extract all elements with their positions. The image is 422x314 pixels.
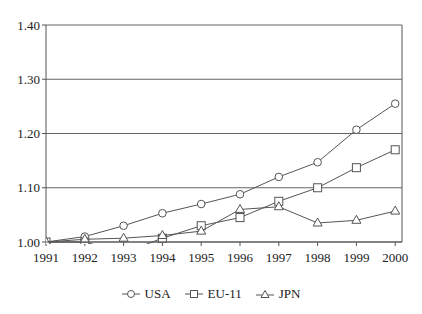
y-tick-label: 1.20 bbox=[17, 126, 40, 141]
square-marker-icon bbox=[314, 184, 322, 192]
triangle-marker-icon bbox=[256, 289, 274, 299]
circle-marker-icon bbox=[314, 158, 322, 166]
x-tick-label: 1994 bbox=[149, 250, 176, 265]
square-marker-icon bbox=[391, 146, 399, 154]
circle-marker-icon bbox=[353, 126, 361, 134]
x-tick-label: 1999 bbox=[343, 250, 369, 265]
y-tick-label: 1.00 bbox=[17, 235, 40, 250]
line-chart: 1.001.101.201.301.4019911992199319941995… bbox=[0, 0, 422, 314]
x-tick-label: 1996 bbox=[227, 250, 254, 265]
circle-marker-icon bbox=[159, 209, 167, 217]
legend-item-jpn: JPN bbox=[256, 286, 301, 302]
square-marker-icon bbox=[236, 214, 244, 222]
square-marker-icon bbox=[352, 164, 360, 172]
square-marker-icon bbox=[185, 289, 203, 299]
y-tick-label: 1.10 bbox=[17, 180, 40, 195]
circle-marker-icon bbox=[120, 222, 128, 230]
x-tick-label: 1992 bbox=[72, 250, 98, 265]
x-tick-label: 1993 bbox=[111, 250, 137, 265]
x-tick-label: 1991 bbox=[33, 250, 59, 265]
circle-marker-icon bbox=[122, 289, 140, 299]
legend-label: JPN bbox=[279, 286, 301, 302]
x-tick-label: 2000 bbox=[382, 250, 408, 265]
y-tick-label: 1.40 bbox=[17, 18, 40, 33]
triangle-marker-icon bbox=[236, 204, 245, 212]
y-tick-label: 1.30 bbox=[17, 72, 40, 87]
chart-legend: USA EU-11 JPN bbox=[0, 284, 422, 304]
circle-marker-icon bbox=[391, 100, 399, 108]
legend-label: USA bbox=[145, 286, 171, 302]
x-tick-label: 1998 bbox=[305, 250, 331, 265]
legend-item-eu-11: EU-11 bbox=[185, 286, 242, 302]
legend-label: EU-11 bbox=[208, 286, 242, 302]
x-tick-label: 1997 bbox=[266, 250, 293, 265]
series-jpn bbox=[42, 202, 400, 245]
x-tick-label: 1995 bbox=[188, 250, 214, 265]
triangle-marker-icon bbox=[391, 206, 400, 214]
circle-marker-icon bbox=[236, 190, 244, 198]
circle-marker-icon bbox=[197, 200, 205, 208]
legend-item-usa: USA bbox=[122, 286, 171, 302]
triangle-marker-icon bbox=[119, 233, 128, 241]
circle-marker-icon bbox=[275, 173, 283, 181]
